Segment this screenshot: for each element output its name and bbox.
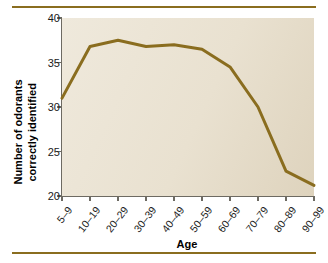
bottom-divider-rule bbox=[12, 252, 316, 254]
x-axis-tick-label: 90–99 bbox=[299, 204, 326, 234]
x-axis-tick-mark bbox=[313, 196, 315, 201]
x-axis-tick-label: 5–9 bbox=[54, 204, 74, 225]
x-axis-tick-label: 20–29 bbox=[103, 204, 130, 234]
x-axis-tick-mark bbox=[61, 196, 63, 201]
x-axis-tick-label: 70–79 bbox=[243, 204, 270, 234]
x-axis-tick-label: 40–49 bbox=[159, 204, 186, 234]
x-axis-tick-mark bbox=[117, 196, 119, 201]
x-axis-tick-label: 30–39 bbox=[131, 204, 158, 234]
y-axis-tick-label: 35 bbox=[20, 57, 60, 69]
y-axis-title-line2: correctly identified bbox=[26, 79, 40, 184]
x-axis-tick-mark bbox=[285, 196, 287, 201]
x-axis-tick-mark bbox=[145, 196, 147, 201]
x-axis-tick-label: 10–19 bbox=[75, 204, 102, 234]
y-axis-tick-label: 30 bbox=[20, 101, 60, 113]
figure-panel: Number of odorants correctly identified … bbox=[0, 0, 328, 263]
plot-area: 5–910–1920–2930–3940–4950–5960–6970–7980… bbox=[61, 18, 314, 197]
x-axis-tick-mark bbox=[89, 196, 91, 201]
y-axis-title-line1: Number of odorants bbox=[12, 79, 26, 184]
line-series-svg bbox=[62, 18, 314, 196]
y-axis-tick-label: 20 bbox=[20, 190, 60, 202]
y-axis-tick-label: 40 bbox=[20, 12, 60, 24]
y-axis-tick-label: 25 bbox=[20, 146, 60, 158]
x-axis-tick-label: 50–59 bbox=[187, 204, 214, 234]
y-axis-title: Number of odorants correctly identified bbox=[12, 79, 40, 184]
x-axis-tick-mark bbox=[257, 196, 259, 201]
x-axis-tick-label: 80–89 bbox=[271, 204, 298, 234]
x-axis-tick-label: 60–69 bbox=[215, 204, 242, 234]
x-axis-tick-mark bbox=[229, 196, 231, 201]
x-axis-title: Age bbox=[61, 238, 313, 250]
x-axis-tick-mark bbox=[201, 196, 203, 201]
x-axis-tick-mark bbox=[173, 196, 175, 201]
top-divider-rule bbox=[12, 6, 316, 8]
line-series-path bbox=[62, 40, 314, 185]
